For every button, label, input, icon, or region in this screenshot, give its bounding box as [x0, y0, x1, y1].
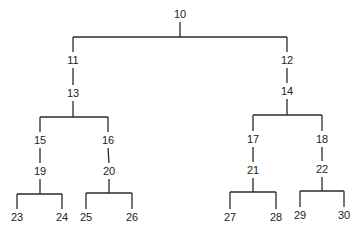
- node-label-11: 11: [67, 54, 78, 66]
- node-label-14: 14: [281, 85, 293, 97]
- node-label-28: 28: [270, 211, 282, 223]
- node-label-26: 26: [126, 211, 138, 223]
- node-label-16: 16: [102, 134, 114, 146]
- node-label-20: 20: [103, 165, 115, 177]
- node-label-24: 24: [56, 211, 68, 223]
- node-label-21: 21: [247, 164, 259, 176]
- tree-diagram: 1011121314151617181920212223242526272829…: [0, 0, 353, 234]
- node-label-30: 30: [338, 209, 350, 221]
- node-label-27: 27: [224, 211, 236, 223]
- node-label-23: 23: [11, 211, 23, 223]
- node-label-13: 13: [67, 87, 79, 99]
- node-label-22: 22: [316, 163, 328, 175]
- node-label-18: 18: [316, 133, 328, 145]
- node-label-12: 12: [281, 54, 293, 66]
- node-label-17: 17: [247, 133, 259, 145]
- node-label-25: 25: [80, 211, 92, 223]
- node-label-19: 19: [34, 165, 46, 177]
- edge-16-20: [108, 148, 109, 163]
- node-label-29: 29: [294, 209, 306, 221]
- node-label-10: 10: [174, 8, 186, 20]
- node-label-15: 15: [34, 134, 46, 146]
- tree-edges: [17, 22, 344, 209]
